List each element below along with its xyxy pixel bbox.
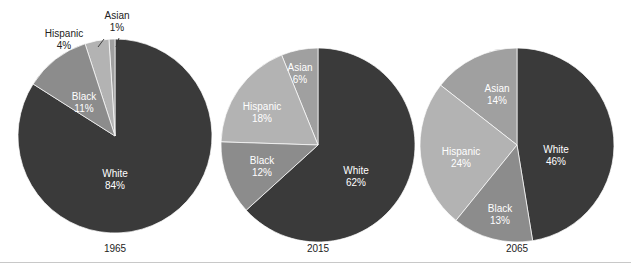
- year-label-1965: 1965: [65, 243, 165, 254]
- pie-1965: [18, 38, 212, 233]
- pie-slice-2065-white[interactable]: [517, 48, 614, 241]
- pie-chart-canvas: [0, 0, 631, 275]
- pie-2065: [420, 48, 614, 242]
- pie-chart-figure: White84%Black11%Hispanic4%Asian1%White62…: [0, 0, 631, 275]
- year-label-2015: 2015: [268, 243, 368, 254]
- pie-2015: [221, 48, 415, 242]
- year-label-2065: 2065: [467, 243, 567, 254]
- bottom-divider: [0, 262, 631, 263]
